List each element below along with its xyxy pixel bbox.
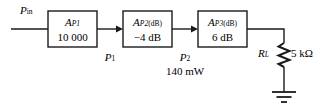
amplifier-1-symbol-base: A	[65, 16, 72, 28]
node-p1-label: P1	[105, 52, 115, 63]
arrow-head-2	[191, 26, 198, 33]
block-diagram-canvas: Pin AP1 10 000 AP2(dB) −4 dB AP3(dB) 6 d…	[0, 0, 331, 112]
amplifier-3-value: 6 dB	[212, 32, 233, 43]
input-power-subscript: in	[27, 7, 33, 16]
circuit-schematic	[0, 0, 331, 112]
amplifier-3-symbol-unit: (dB)	[223, 19, 237, 28]
arrow-head-1	[116, 26, 123, 33]
amplifier-3-symbol-base: A	[208, 16, 215, 28]
load-resistor-symbol: R	[258, 47, 265, 59]
node-p1-subscript: 1	[111, 54, 115, 63]
node-p2-subscript: 2	[186, 54, 190, 63]
amplifier-2-symbol-subscript: P2	[140, 19, 148, 28]
amplifier-1-symbol: AP1	[65, 17, 80, 28]
input-power-symbol: P	[20, 4, 27, 16]
node-p2-symbol: P	[180, 51, 187, 63]
amplifier-1-symbol-subscript: P1	[72, 19, 80, 28]
load-resistor-subscript: L	[265, 50, 269, 59]
amplifier-2-symbol: AP2(dB)	[133, 17, 162, 28]
output-wire	[247, 29, 284, 43]
input-power-label: Pin	[20, 5, 33, 16]
node-p2-label: P2	[180, 52, 190, 63]
amplifier-3-symbol-subscript: P3	[215, 19, 223, 28]
amplifier-3-symbol: AP3(dB)	[208, 17, 237, 28]
node-p1-symbol: P	[105, 51, 112, 63]
node-p2-value: 140 mW	[166, 66, 204, 77]
load-resistor-zigzag	[279, 43, 290, 67]
amplifier-2-symbol-unit: (dB)	[148, 19, 162, 28]
load-resistor-value: 5 kΩ	[291, 48, 313, 59]
amplifier-1-value: 10 000	[57, 32, 87, 43]
amplifier-2-value: −4 dB	[134, 32, 161, 43]
load-resistor-label: RL	[258, 48, 269, 59]
amplifier-2-symbol-base: A	[133, 16, 140, 28]
